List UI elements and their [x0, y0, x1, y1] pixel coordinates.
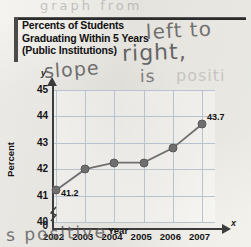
data-point-label: 43.7 — [207, 112, 225, 122]
callout-left-bar — [14, 18, 18, 62]
line-chart: y x 4544434241400 2002200320042005200620… — [0, 60, 251, 247]
x-axis-title: Year — [108, 225, 128, 236]
handwriting-positive-faint: positi — [176, 66, 225, 85]
handwriting-right: right, — [122, 39, 188, 66]
figure-title-line-1: Percents of Students — [22, 19, 162, 32]
data-point-marker — [52, 186, 61, 195]
handwriting-positive: s positive — [6, 221, 108, 245]
data-point-marker — [198, 120, 207, 129]
data-point-marker — [110, 158, 119, 167]
data-point-marker — [168, 144, 177, 153]
data-points: 41.243.7 — [0, 60, 251, 247]
handwriting-top-faint: graph from — [40, 0, 142, 13]
data-point-label: 41.2 — [61, 188, 79, 198]
handwriting-slope: slope — [43, 56, 100, 82]
data-point-marker — [81, 165, 90, 174]
handwriting-is: is — [140, 66, 156, 86]
data-point-marker — [139, 158, 148, 167]
